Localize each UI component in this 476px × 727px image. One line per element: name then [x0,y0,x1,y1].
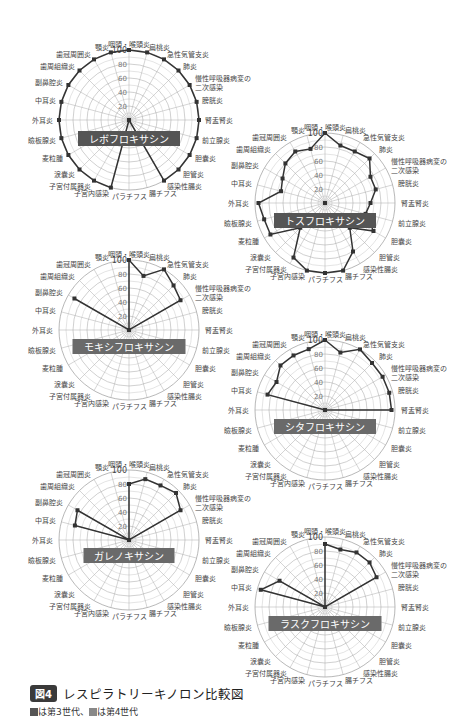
category-label: 肺炎 [379,550,393,558]
category-label: 咽頭・喉頭炎 [304,123,346,132]
axis-tick-label: 60 [118,495,127,503]
category-label: 麦粒腫 [238,237,259,246]
gen3-legend-label: は第3世代 [38,707,80,717]
axis-tick-label: 40 [118,89,127,97]
category-label: 副鼻腔炎 [231,161,259,170]
data-point-marker [338,144,342,148]
grid-spoke [129,479,164,540]
category-label: 肺炎 [379,146,393,154]
category-label: 前立腺炎 [202,556,230,565]
data-point-marker [307,347,311,351]
category-label: 二次感染 [391,570,419,579]
data-point-marker [293,149,297,153]
data-point-marker [92,179,96,183]
grid-spoke [129,269,164,330]
category-label: 外耳炎 [32,116,53,125]
category-label: 腎盂腎炎 [205,326,233,335]
category-label: 慢性呼吸器病変の [391,157,447,166]
data-point-marker [59,136,63,140]
data-point-marker [323,542,327,546]
data-point-marker [109,50,113,54]
category-label: 副鼻腔炎 [231,565,259,574]
category-label: 中耳炎 [231,386,252,395]
data-point-marker [127,48,131,52]
category-label: 中耳炎 [35,96,56,105]
radar-chart-2: 20406080100咽頭・喉頭炎扁桃炎急性気管支炎肺炎慢性呼吸器病変の二次感染… [224,123,447,284]
drug-name-label: レボフロキサシン [89,134,169,145]
radar-chart-4: 20406080100咽頭・喉頭炎扁桃炎急性気管支炎肺炎慢性呼吸器病変の二次感染… [224,330,447,491]
category-label: 前立腺炎 [398,426,426,435]
data-point-marker [323,338,327,342]
axis-tick-label: 60 [314,562,323,570]
category-label: 腎盂腎炎 [401,199,429,208]
axis-tick-label: 20 [314,186,323,194]
data-point-marker [387,391,391,395]
data-point-marker [279,189,283,193]
category-label: 胆管炎 [183,170,204,179]
category-label: 瞼板腺炎 [28,346,56,355]
data-point-marker [162,179,166,183]
category-label: 顎炎 [291,127,305,135]
data-point-marker [59,100,63,104]
axis-tick-label: 40 [314,576,323,584]
data-point-marker [197,118,201,122]
category-label: 腸チフス [149,190,177,198]
category-label: 二次感染 [195,503,223,512]
category-label: 瞼板腺炎 [224,219,252,228]
data-point-marker [109,186,113,190]
axis-tick-label: 60 [118,75,127,83]
generation-legend: は第3世代、は第4世代 [30,705,244,718]
data-point-marker [375,575,379,579]
axis-tick-label: 40 [314,172,323,180]
data-point-marker [381,375,385,379]
grid-spoke [129,312,197,330]
center-marker [323,201,327,205]
radar-chart-3: 20406080100咽頭・喉頭炎扁桃炎急性気管支炎肺炎慢性呼吸器病変の二次感染… [28,250,251,411]
category-label: 副鼻腔炎 [35,78,63,87]
category-label: 瞼板腺炎 [28,136,56,145]
category-label: 腎盂腎炎 [205,536,233,545]
category-label: 胆管炎 [183,590,204,599]
category-label: 顎炎 [95,254,109,262]
category-label: 歯冠周囲炎 [252,537,287,546]
data-point-marker [323,271,327,275]
category-label: 子宮付属器炎 [49,392,91,401]
grid-spoke [325,168,386,203]
data-point-marker [262,217,266,221]
category-label: 麦粒腫 [42,574,63,583]
category-label: 顎炎 [95,44,109,52]
data-point-marker [179,298,183,302]
data-point-marker [370,361,374,365]
data-point-marker [188,153,192,157]
category-label: 腸チフス [149,400,177,408]
grid-spoke [290,203,325,264]
category-label: 胆嚢炎 [391,237,412,246]
category-label: 外耳炎 [32,536,53,545]
center-marker [323,408,327,412]
category-label: 瞼板腺炎 [224,623,252,632]
category-label: 歯冠周囲炎 [252,340,287,349]
center-marker [323,605,327,609]
category-label: 肺炎 [183,273,197,281]
data-point-marker [292,256,296,260]
category-label: パラチフス [112,613,147,621]
data-point-marker [278,363,282,367]
category-label: パラチフス [308,483,343,491]
drug-name-label: シタフロキサシン [285,422,365,433]
category-label: 前立腺炎 [202,346,230,355]
data-point-marker [368,175,372,179]
legend-separator: 、 [80,707,89,717]
data-point-marker [195,136,199,140]
category-label: 咽頭・喉頭炎 [304,527,346,536]
data-point-marker [275,380,279,384]
category-label: 外耳炎 [32,326,53,335]
category-label: 涙嚢炎 [250,657,271,666]
gen4-legend-label: は第4世代 [97,707,139,717]
category-label: 膀胱炎 [202,96,223,105]
axis-tick-label: 80 [314,351,323,359]
category-label: 腎盂腎炎 [205,116,233,125]
category-label: パラチフス [112,403,147,411]
data-point-marker [390,408,394,412]
category-label: 涙嚢炎 [54,380,75,389]
data-point-marker [176,69,180,73]
